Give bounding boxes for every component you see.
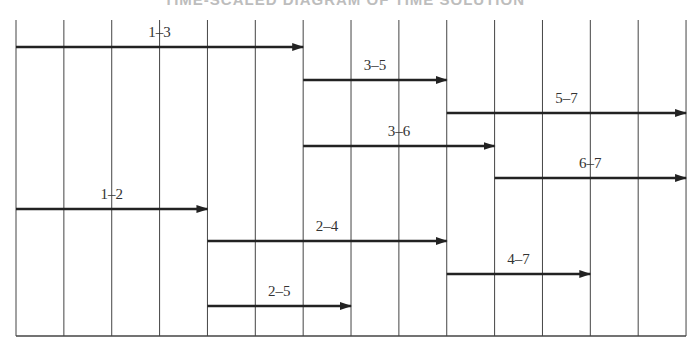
activity-arrow-3-5: 3–5 (303, 57, 447, 80)
activity-label: 4–7 (507, 251, 530, 267)
activity-label: 6–7 (579, 155, 602, 171)
activity-arrow-2-5: 2–5 (207, 283, 351, 306)
activity-label: 1–2 (100, 186, 123, 202)
activity-label: 3–6 (388, 123, 411, 139)
activity-label: 2–5 (268, 283, 291, 299)
activity-arrow-5-7: 5–7 (447, 90, 686, 113)
activity-arrow-2-4: 2–4 (207, 218, 446, 241)
activity-label: 1–3 (148, 24, 171, 40)
time-scaled-arrow-diagram: 1–33–55–73–66–71–22–44–72–5 (0, 0, 689, 338)
activity-label: 3–5 (364, 57, 387, 73)
activity-label: 2–4 (316, 218, 339, 234)
activity-arrow-4-7: 4–7 (447, 251, 591, 274)
activity-label: 5–7 (555, 90, 578, 106)
